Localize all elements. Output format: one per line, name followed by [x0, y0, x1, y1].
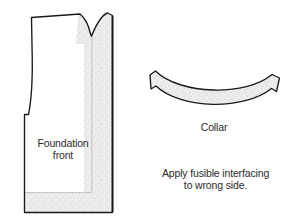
interfacing-instruction-note: Apply fusible interfacing to wrong side.: [145, 167, 286, 192]
diagram-canvas: Foundation front Collar Apply fusible in…: [0, 0, 289, 223]
foundation-front-label: Foundation front: [24, 137, 102, 162]
collar-label: Collar: [166, 121, 262, 133]
collar-fill: [150, 71, 280, 104]
piece-collar: [150, 71, 280, 104]
interfacing-band-neckline: [76, 12, 92, 44]
piece-foundation-front: [20, 8, 118, 216]
